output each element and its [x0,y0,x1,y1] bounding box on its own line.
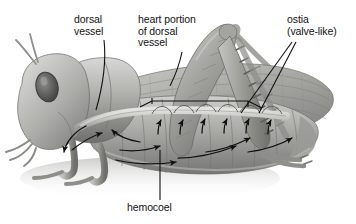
label-dorsal-vessel: dorsal vessel [74,14,103,37]
label-ostia: ostia (valve-like) [287,14,337,37]
label-heart-portion-of-dorsal-vessel: heart portion of dorsal vessel [138,14,196,49]
label-hemocoel: hemocoel [127,202,172,214]
anatomy-figure: dorsal vessel heart portion of dorsal ve… [0,0,356,224]
mouthparts [6,140,36,166]
antennae [16,34,38,64]
